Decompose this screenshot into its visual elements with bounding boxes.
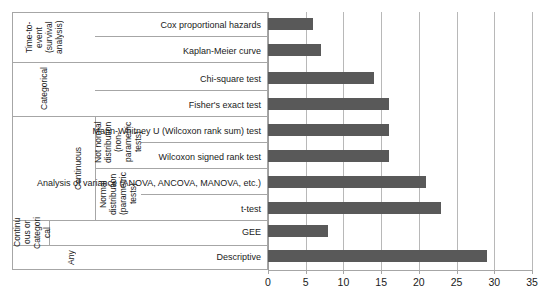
- bar: [268, 124, 389, 136]
- tick-mark-20: [419, 270, 420, 274]
- tick-label-15: 15: [375, 276, 387, 288]
- group-label-any: Any: [61, 245, 81, 270]
- plot-area: [268, 12, 532, 270]
- x-axis-line: [268, 270, 532, 271]
- tick-mark-35: [532, 270, 533, 274]
- tick-label-0: 0: [265, 276, 271, 288]
- bar-chart: Time-to-event (survival analysis) Catego…: [0, 0, 550, 308]
- bar: [268, 176, 426, 188]
- row-separator: [95, 36, 267, 37]
- group-label-time-to-event: Time-to-event (survival analysis): [27, 13, 61, 62]
- group-label-normal: Normal distribution (parametric tests): [97, 168, 139, 220]
- tick-mark-0: [268, 270, 269, 274]
- row-label: Wilcoxon signed rank test: [158, 152, 261, 162]
- tick-mark-30: [494, 270, 495, 274]
- group-label-continuous-or-categorical: Continu ous or Categori cal: [15, 220, 49, 245]
- bar: [268, 44, 321, 56]
- row-label: GEE: [242, 227, 261, 237]
- row-separator: [95, 90, 267, 91]
- group-label-categorical: Categorical: [33, 62, 55, 116]
- bar: [268, 72, 374, 84]
- tick-label-20: 20: [413, 276, 425, 288]
- row-separator: [141, 194, 267, 195]
- row-label: Kaplan-Meier curve: [183, 46, 261, 56]
- tick-label-10: 10: [338, 276, 350, 288]
- row-label: Analysis of variance (ANOVA, ANCOVA, MAN…: [37, 178, 261, 188]
- gridline-10: [343, 12, 344, 270]
- row-label: Cox proportional hazards: [160, 20, 261, 30]
- row-label: Descriptive: [216, 252, 261, 262]
- group-label-not-normal: Not normal distribution (non-parametric …: [97, 116, 139, 168]
- row-separator: [141, 142, 267, 143]
- gridline-35: [532, 12, 533, 270]
- tick-mark-25: [457, 270, 458, 274]
- category-label-table: Time-to-event (survival analysis) Catego…: [12, 12, 268, 270]
- gridline-30: [494, 12, 495, 270]
- bar: [268, 202, 441, 214]
- row-label: Mann-Whitney U (Wilcoxon rank sum) test: [92, 126, 261, 136]
- bar: [268, 225, 328, 237]
- tick-mark-5: [306, 270, 307, 274]
- tick-label-30: 30: [488, 276, 500, 288]
- row-label: Fisher's exact test: [189, 100, 261, 110]
- tick-mark-10: [343, 270, 344, 274]
- tick-label-5: 5: [303, 276, 309, 288]
- tick-label-25: 25: [451, 276, 463, 288]
- chart-title: [182, 0, 432, 9]
- gridline-20: [419, 12, 420, 270]
- gridline-25: [457, 12, 458, 270]
- group-label-continuous: Continuous: [63, 116, 93, 220]
- bar: [268, 98, 389, 110]
- row-label: Chi-square test: [200, 74, 261, 84]
- row-label: t-test: [241, 204, 261, 214]
- gridline-15: [381, 12, 382, 270]
- bar: [268, 250, 487, 262]
- bar: [268, 18, 313, 30]
- bar: [268, 150, 389, 162]
- tick-mark-15: [381, 270, 382, 274]
- tick-label-35: 35: [526, 276, 538, 288]
